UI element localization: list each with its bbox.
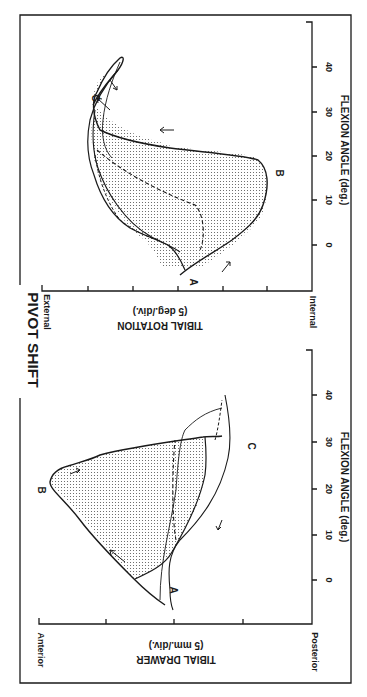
bottom-pos-label: Anterior — [36, 632, 46, 668]
bottom-point-c: C — [246, 442, 257, 449]
bottom-point-a: A — [168, 586, 179, 593]
svg-text:40: 40 — [324, 62, 334, 72]
bottom-flexion-tick-labels: 0 10 20 30 40 — [324, 390, 334, 583]
svg-text:20: 20 — [324, 151, 334, 161]
top-flexion-tick-labels: 0 10 20 30 40 — [324, 62, 334, 248]
bottom-panel-curves — [50, 395, 230, 610]
svg-text:20: 20 — [324, 484, 334, 494]
svg-text:10: 10 — [324, 195, 334, 205]
svg-text:30: 30 — [324, 107, 334, 117]
bottom-xlabel: FLEXION ANGLE (deg.) — [339, 432, 350, 543]
pivot-shift-figure: PIVOT SHIFT A B C 0 10 20 — [0, 0, 367, 697]
top-point-a: A — [188, 278, 199, 285]
bottom-point-b: B — [36, 486, 47, 493]
top-neg-label: Internal — [308, 296, 318, 329]
top-point-b: B — [274, 169, 285, 176]
top-units: (5 deg./div.) — [133, 306, 188, 317]
top-xlabel: FLEXION ANGLE (deg.) — [339, 95, 350, 206]
svg-text:30: 30 — [324, 437, 334, 447]
top-point-c: C — [90, 94, 101, 101]
bottom-ylabel: TIBIAL DRAWER — [136, 654, 216, 665]
svg-text:0: 0 — [324, 577, 334, 582]
svg-text:10: 10 — [324, 530, 334, 540]
chart-title: PIVOT SHIFT — [25, 292, 42, 388]
svg-text:0: 0 — [324, 242, 334, 247]
top-hysteresis-fill — [91, 72, 266, 268]
top-pos-label: External — [42, 294, 52, 330]
outer-frame — [20, 15, 351, 683]
bottom-neg-label: Posterior — [310, 632, 320, 672]
bottom-units: (5 mm./div.) — [149, 640, 204, 651]
svg-text:40: 40 — [324, 390, 334, 400]
bottom-hysteresis-fill — [50, 437, 204, 579]
top-ylabel: TIBIAL ROTATION — [117, 320, 203, 331]
top-panel-curves — [88, 57, 267, 275]
